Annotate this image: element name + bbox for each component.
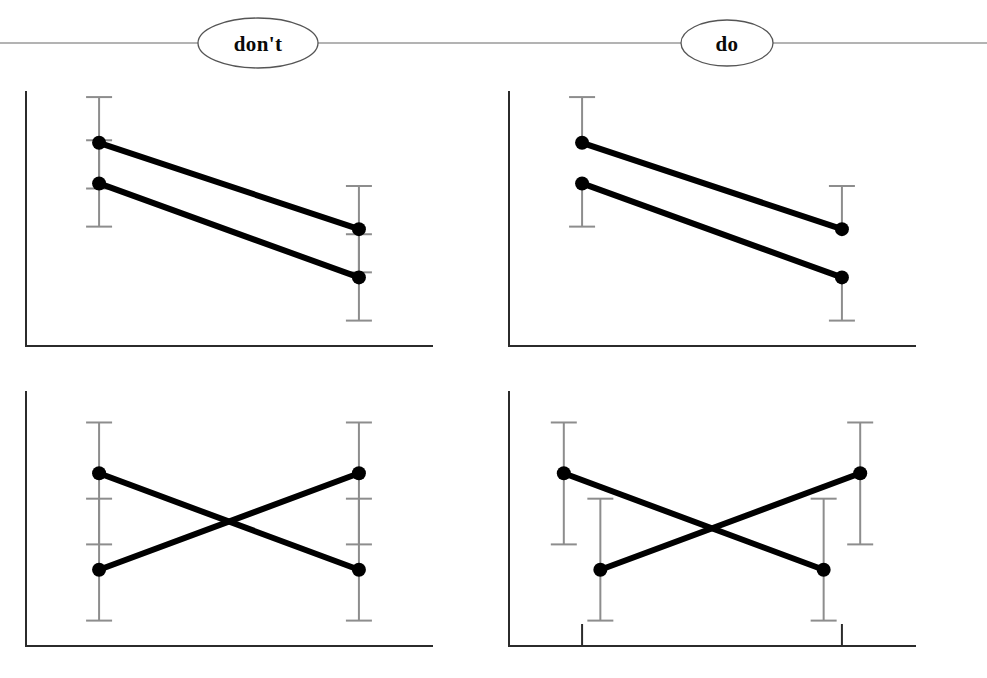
series-group	[92, 136, 366, 285]
data-point-rising-0	[92, 563, 106, 577]
series-group	[575, 136, 849, 285]
error-bars	[86, 97, 372, 321]
series-line-upper	[582, 143, 842, 229]
chart-top-left-dont	[14, 84, 454, 374]
data-point-upper-1	[835, 222, 849, 236]
series-group	[557, 466, 867, 577]
axis-lines	[26, 92, 432, 346]
data-point-falling-1	[817, 563, 831, 577]
figure-root: don't do	[0, 0, 987, 678]
badge-dont-label: don't	[234, 32, 283, 56]
badge-do: do	[681, 20, 773, 66]
data-point-lower-1	[352, 270, 366, 284]
axis-lines	[509, 392, 915, 646]
data-point-rising-1	[352, 466, 366, 480]
series-line-upper	[99, 143, 359, 229]
badge-do-label: do	[716, 32, 739, 56]
data-point-rising-1	[853, 466, 867, 480]
data-point-rising-0	[593, 563, 607, 577]
data-point-upper-1	[352, 222, 366, 236]
error-bar-falling-0	[551, 422, 577, 544]
chart-axes	[509, 92, 915, 346]
error-bars	[551, 422, 873, 620]
error-bar-rising-0	[86, 499, 112, 621]
series-group	[92, 466, 366, 577]
data-point-falling-0	[92, 466, 106, 480]
data-point-lower-1	[835, 270, 849, 284]
data-point-upper-0	[575, 136, 589, 150]
error-bars	[569, 97, 855, 321]
chart-axes	[509, 392, 915, 646]
header-band: don't do	[0, 0, 987, 78]
panel-top-right-do	[497, 84, 937, 374]
panel-grid	[0, 78, 987, 678]
panel-bottom-left-dont	[14, 384, 454, 674]
axis-lines	[509, 92, 915, 346]
header-rule-and-badges: don't do	[0, 0, 987, 78]
error-bar-rising-1	[847, 422, 873, 544]
data-point-falling-1	[352, 563, 366, 577]
series-line-lower	[582, 183, 842, 277]
data-point-lower-0	[92, 176, 106, 190]
chart-bottom-right-do	[497, 384, 937, 674]
series-line-lower	[99, 183, 359, 277]
error-bar-rising-0	[587, 499, 613, 621]
data-point-falling-0	[557, 466, 571, 480]
data-point-lower-0	[575, 176, 589, 190]
panel-top-left-dont	[14, 84, 454, 374]
chart-bottom-left-dont	[14, 384, 454, 674]
badge-dont: don't	[198, 18, 318, 68]
data-point-upper-0	[92, 136, 106, 150]
chart-top-right-do	[497, 84, 937, 374]
chart-axes	[26, 92, 432, 346]
error-bar-rising-1	[346, 422, 372, 544]
panel-bottom-right-do	[497, 384, 937, 674]
series-line-falling	[564, 473, 824, 570]
series-line-rising	[600, 473, 860, 570]
x-axis-ticks	[582, 624, 842, 646]
error-bar-falling-1	[811, 499, 837, 621]
